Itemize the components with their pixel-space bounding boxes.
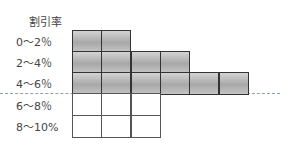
empty-cell: [72, 93, 102, 116]
filled-cell: [72, 30, 102, 53]
filled-cell: [189, 72, 219, 95]
row-label: 4～6％: [16, 75, 66, 91]
empty-cell: [131, 93, 161, 116]
empty-cell: [131, 115, 161, 138]
empty-cell: [101, 93, 131, 116]
filled-cell: [72, 51, 102, 74]
discount-rate-header: 割引率: [29, 13, 62, 29]
filled-cell: [101, 72, 131, 95]
row-label: 8～10%: [16, 118, 66, 134]
empty-cell: [72, 115, 102, 138]
filled-cell: [131, 51, 161, 74]
filled-cell: [160, 72, 190, 95]
filled-cell: [131, 72, 161, 95]
filled-cell: [160, 51, 190, 74]
row-label: 2～4％: [16, 54, 66, 70]
row-label: 6～8％: [16, 97, 66, 113]
row-label: 0～2％: [16, 33, 66, 49]
filled-cell: [101, 51, 131, 74]
filled-cell: [101, 30, 131, 53]
empty-cell: [101, 115, 131, 138]
filled-cell: [219, 72, 249, 95]
filled-cell: [72, 72, 102, 95]
